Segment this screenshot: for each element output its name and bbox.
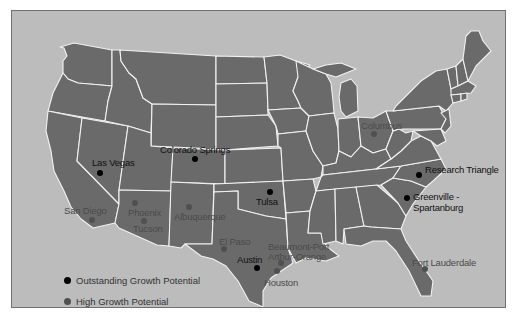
state-michigan: [339, 79, 358, 117]
city-label-albuquerque: Albuquerque: [174, 212, 226, 222]
city-label-tucson: Tucson: [133, 224, 163, 234]
city-label-spartanburg: Spartanburg: [413, 203, 463, 213]
state-wyoming: [151, 104, 216, 149]
outstanding-dot-icon: [64, 277, 71, 284]
city-marker-research-triangle: [416, 172, 422, 178]
city-marker-albuquerque: [186, 204, 192, 210]
city-label-fort-lauderdale: Fort Lauderdale: [412, 258, 476, 268]
high-dot-icon: [64, 298, 71, 305]
city-marker-phoenix: [132, 200, 138, 206]
state-maine: [463, 31, 491, 81]
city-label-greenville: Greenville -: [413, 192, 459, 202]
state-new-york: [393, 69, 453, 111]
state-north-dakota: [216, 56, 267, 84]
city-marker-houston: [274, 268, 280, 274]
city-label-arthur-orange: Arthur-Orange: [268, 252, 326, 262]
city-label-phoenix: Phoenix: [128, 208, 161, 218]
city-label-san-diego: San Diego: [64, 206, 107, 216]
legend-item-outstanding: Outstanding Growth Potential: [64, 274, 200, 286]
city-label-el-paso: El Paso: [219, 237, 250, 247]
legend-label-high: High Growth Potential: [76, 296, 168, 307]
city-label-houston: Houston: [264, 278, 298, 288]
city-label-columbus: Columbus: [361, 121, 402, 131]
legend: Outstanding Growth Potential High Growth…: [64, 274, 200, 308]
city-label-austin: Austin: [237, 255, 262, 265]
city-marker-columbus: [371, 131, 377, 137]
city-marker-greenville: [404, 195, 410, 201]
city-marker-austin: [254, 265, 260, 271]
legend-item-high: High Growth Potential: [64, 295, 200, 307]
city-label-las-vegas: Las Vegas: [92, 158, 135, 168]
city-marker-colorado-springs: [192, 156, 198, 162]
city-label-research-triangle: Research Triangle: [425, 165, 499, 175]
legend-label-outstanding: Outstanding Growth Potential: [76, 275, 200, 286]
city-marker-san-diego: [89, 217, 95, 223]
city-label-tulsa: Tulsa: [256, 197, 278, 207]
city-label-colorado-springs: Colorado Springs: [160, 145, 230, 155]
state-rhode-island: [461, 93, 467, 101]
city-marker-las-vegas: [97, 170, 103, 176]
city-marker-tulsa: [267, 189, 273, 195]
state-south-dakota: [216, 83, 268, 117]
state-kansas: [225, 148, 283, 184]
state-connecticut: [451, 94, 461, 103]
